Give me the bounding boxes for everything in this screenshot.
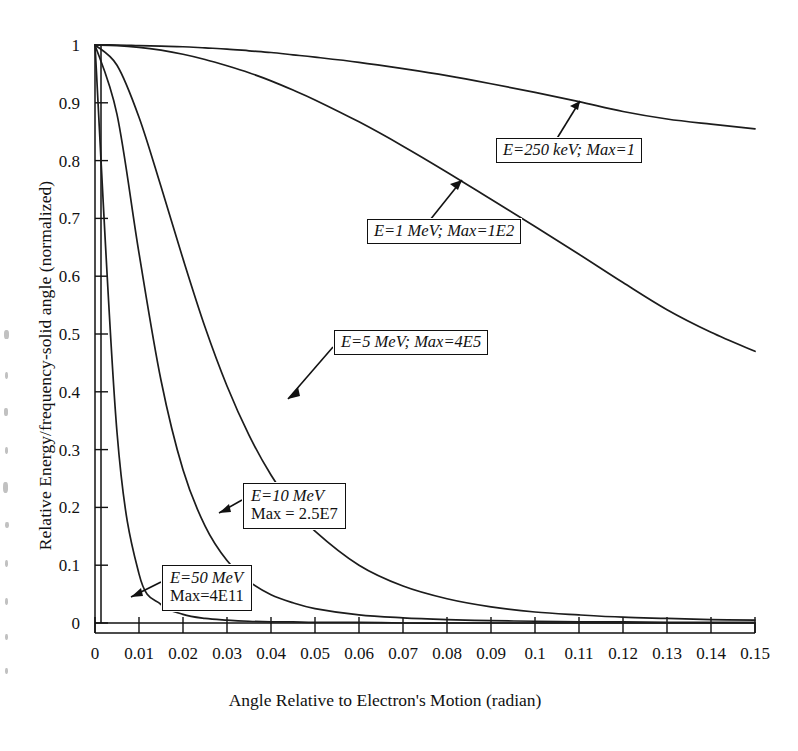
x-tick-label: 0.15 [740,645,770,662]
x-tick-label: 0.13 [652,645,682,662]
annotation-5mev-text: E=5 MeV; Max=4E5 [341,332,481,351]
plot-svg [0,0,798,751]
annotation-50mev: E=50 MeV Max=4E11 [162,565,252,611]
figure-canvas: 1 0.9 0.8 0.7 0.6 0.5 0.4 0.3 0.2 0.1 0 … [0,0,798,751]
x-tick-label: 0.03 [212,645,242,662]
annotation-10mev: E=10 MeV Max = 2.5E7 [243,483,346,529]
x-tick-label: 0.02 [168,645,198,662]
x-tick-label: 0.11 [564,645,593,662]
x-tick-label: 0.06 [344,645,374,662]
x-axis-title: Angle Relative to Electron's Motion (rad… [0,690,798,711]
x-axis-title-text: Angle Relative to Electron's Motion (rad… [229,690,542,711]
x-tick-label: 0.08 [432,645,462,662]
annotation-10mev-line1: E=10 MeV [251,487,338,505]
x-tick-label: 0.1 [524,645,545,662]
x-tick-label: 0.07 [388,645,418,662]
x-tick-label: 0 [91,645,100,662]
annotation-50mev-line1: E=50 MeV [170,569,244,587]
y-tick-label: 0 [22,615,80,632]
x-tick-label: 0.14 [696,645,726,662]
x-tick-label: 0.01 [124,645,154,662]
annotation-1mev-text: E=1 MeV; Max=1E2 [374,221,514,240]
annotation-250kev-text: E=250 keV; Max=1 [503,140,635,159]
x-tick-label: 0.05 [300,645,330,662]
annotation-50mev-line2: Max=4E11 [170,587,244,605]
curve-1mev [95,45,755,351]
annotation-5mev: E=5 MeV; Max=4E5 [334,330,488,355]
annotation-250kev: E=250 keV; Max=1 [496,138,642,163]
annotation-10mev-line2: Max = 2.5E7 [251,505,338,523]
annotation-1mev: E=1 MeV; Max=1E2 [367,219,521,244]
x-tick-label: 0.12 [608,645,638,662]
y-axis-title: Relative Energy/frequency-solid angle (n… [35,116,56,616]
x-tick-label: 0.09 [476,645,506,662]
y-tick-label: 0.9 [22,95,80,112]
x-tick-label: 0.04 [256,645,286,662]
y-tick-label: 1 [22,37,80,54]
